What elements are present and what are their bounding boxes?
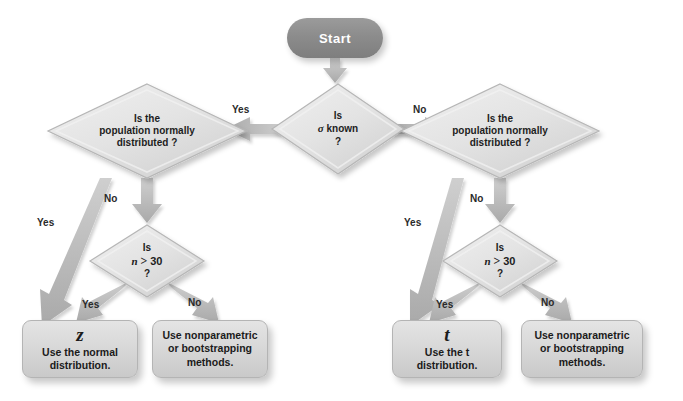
edge-label-right-normal-yes: Yes xyxy=(404,217,421,228)
edge-left-normal-no xyxy=(132,178,162,223)
decision-n30-left[interactable]: Is n > 30 ? xyxy=(90,225,204,297)
np-left-line-1: Use nonparametric xyxy=(162,329,257,342)
edge-label-left-normal-yes: Yes xyxy=(37,217,54,228)
n30-right-operator: > xyxy=(494,254,501,268)
sigma-known-text: known xyxy=(324,123,358,134)
sigma-line-1: Is xyxy=(288,110,388,122)
decision-normal-left-label: Is the population normally distributed ? xyxy=(72,113,222,150)
sigma-symbol: σ xyxy=(318,122,324,134)
decision-n30-left-label: Is n > 30 ? xyxy=(104,242,191,280)
edge-label-left-n30-no: No xyxy=(188,297,201,308)
n30-left-operator: > xyxy=(141,254,148,268)
decision-n30-right[interactable]: Is n > 30 ? xyxy=(443,225,557,297)
edge-label-sigma-no: No xyxy=(413,104,426,115)
result-nonparametric-left[interactable]: Use nonparametric or bootstrapping metho… xyxy=(152,320,268,378)
edge-label-right-normal-no: No xyxy=(470,193,483,204)
n30-left-line-1: Is xyxy=(104,242,191,254)
t-symbol: t xyxy=(444,325,449,345)
normal-left-line-2: population normally xyxy=(72,125,222,137)
n30-right-line-2: n > 30 xyxy=(457,254,544,268)
np-right-line-2: or bootstrapping xyxy=(540,342,624,355)
normal-right-line-3: distributed ? xyxy=(425,137,575,149)
normal-left-line-3: distributed ? xyxy=(72,137,222,149)
edge-label-left-n30-yes: Yes xyxy=(82,299,99,310)
n30-right-value: 30 xyxy=(503,255,515,267)
z-line-1: Use the normal xyxy=(42,346,118,359)
start-node-label: Start xyxy=(319,31,351,46)
edge-label-right-n30-yes: Yes xyxy=(436,299,453,310)
decision-sigma-known[interactable]: Is σ known ? xyxy=(272,84,404,174)
edge-label-right-n30-no: No xyxy=(541,297,554,308)
n30-right-line-3: ? xyxy=(457,268,544,280)
n30-left-symbol: n xyxy=(132,255,138,267)
n30-right-symbol: n xyxy=(485,255,491,267)
sigma-line-2: σ known xyxy=(288,122,388,135)
decision-normal-right[interactable]: Is the population normally distributed ? xyxy=(401,84,599,178)
edge-label-left-normal-no: No xyxy=(104,193,117,204)
normal-right-line-2: population normally xyxy=(425,125,575,137)
z-symbol: z xyxy=(76,325,83,345)
edge-right-normal-no xyxy=(485,178,515,223)
result-nonparametric-right[interactable]: Use nonparametric or bootstrapping metho… xyxy=(521,320,643,378)
decision-sigma-known-label: Is σ known ? xyxy=(288,110,388,148)
result-z-box[interactable]: z Use the normal distribution. xyxy=(22,320,138,378)
z-line-2: distribution. xyxy=(50,359,111,372)
edge-label-sigma-yes: Yes xyxy=(232,104,249,115)
decision-n30-right-label: Is n > 30 ? xyxy=(457,242,544,280)
decision-normal-left[interactable]: Is the population normally distributed ? xyxy=(48,84,246,178)
normal-right-line-1: Is the xyxy=(425,113,575,125)
np-left-line-3: methods. xyxy=(187,356,234,369)
n30-right-line-1: Is xyxy=(457,242,544,254)
t-line-2: distribution. xyxy=(417,359,478,372)
edge-start-to-sigma xyxy=(323,58,347,83)
result-t-box[interactable]: t Use the t distribution. xyxy=(392,320,502,378)
np-left-line-2: or bootstrapping xyxy=(168,342,252,355)
flowchart-canvas: Start Is σ known ? Is the population nor… xyxy=(0,0,683,401)
n30-left-line-3: ? xyxy=(104,268,191,280)
np-right-line-1: Use nonparametric xyxy=(534,329,629,342)
normal-left-line-1: Is the xyxy=(72,113,222,125)
sigma-line-3: ? xyxy=(288,136,388,148)
decision-normal-right-label: Is the population normally distributed ? xyxy=(425,113,575,150)
start-node[interactable]: Start xyxy=(287,18,383,58)
n30-left-line-2: n > 30 xyxy=(104,254,191,268)
np-right-line-3: methods. xyxy=(559,356,606,369)
n30-left-value: 30 xyxy=(150,255,162,267)
t-line-1: Use the t xyxy=(425,346,469,359)
